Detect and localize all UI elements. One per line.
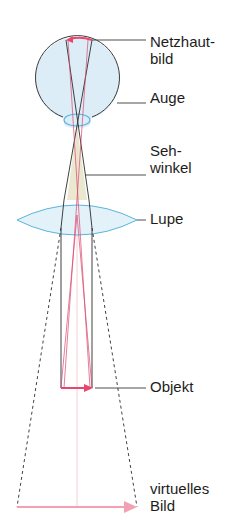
retina-image-label: Netzhaut- bild bbox=[150, 33, 215, 67]
magnifier-label: Lupe bbox=[150, 210, 183, 227]
virtual-image-label-line2: Bild bbox=[150, 497, 209, 514]
virtual-image-label-line1: virtuelles bbox=[150, 480, 209, 497]
retina-image-label-line2: bild bbox=[150, 50, 215, 67]
magnifier-diagram bbox=[0, 0, 245, 530]
virtual-image-label: virtuelles Bild bbox=[150, 480, 209, 514]
visual-angle-label-line2: winkel bbox=[150, 159, 192, 176]
magnifier-lens bbox=[17, 205, 137, 235]
eye bbox=[36, 36, 120, 128]
object-label: Objekt bbox=[150, 378, 193, 395]
retina-image-label-line1: Netzhaut- bbox=[150, 33, 215, 50]
eye-label: Auge bbox=[150, 89, 185, 106]
visual-angle-label-line1: Seh- bbox=[150, 142, 192, 159]
visual-angle-label: Seh- winkel bbox=[150, 142, 192, 176]
